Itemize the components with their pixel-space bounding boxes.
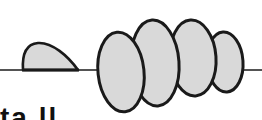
caption-partial: ta ll [0, 104, 58, 120]
half-dome-shape [23, 43, 78, 70]
ellipse-cluster [94, 18, 245, 114]
